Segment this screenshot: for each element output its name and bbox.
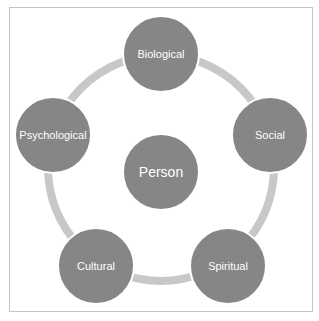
node-label: Cultural [77, 260, 115, 272]
node-psychological: Psychological [14, 96, 92, 174]
node-label: Social [255, 129, 285, 141]
node-label: Person [139, 164, 183, 180]
node-label: Biological [137, 48, 184, 60]
node-label: Spiritual [208, 260, 248, 272]
node-label: Psychological [19, 129, 86, 141]
node-social: Social [231, 96, 309, 174]
node-cultural: Cultural [57, 227, 135, 305]
node-spiritual: Spiritual [189, 227, 267, 305]
node-biological: Biological [122, 15, 200, 93]
center-node-person: Person [122, 133, 200, 211]
